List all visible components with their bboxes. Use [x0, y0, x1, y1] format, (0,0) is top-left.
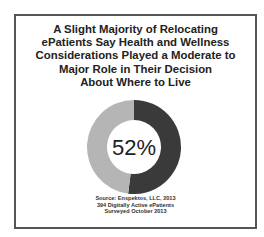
title-line: A Slight Majority of Relocating — [16, 23, 255, 36]
title-line: ePatients Say Health and Wellness — [16, 36, 255, 49]
chart-frame: A Slight Majority of Relocating ePatient… — [14, 14, 257, 229]
source-note: Source: Enspektos, LLC, 2013 394 Digital… — [16, 195, 255, 215]
source-line: Source: Enspektos, LLC, 2013 — [16, 195, 255, 202]
center-percent-label: 52% — [112, 135, 156, 160]
source-line: Surveyed October 2013 — [16, 208, 255, 215]
title-line: Major Role in Their Decision — [16, 63, 255, 76]
chart-title: A Slight Majority of Relocating ePatient… — [16, 23, 255, 89]
title-line: About Where to Live — [16, 76, 255, 89]
source-line: 394 Digitally Active ePatients — [16, 202, 255, 209]
title-line: Considerations Played a Moderate to — [16, 49, 255, 62]
donut-chart: 52% — [86, 99, 182, 195]
